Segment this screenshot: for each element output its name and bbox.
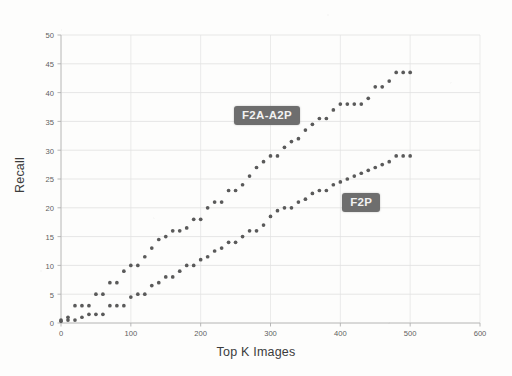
x-tick-label: 0 (59, 329, 63, 338)
x-tick-label: 200 (194, 329, 207, 338)
data-point (387, 160, 391, 164)
data-point (276, 154, 280, 158)
y-tick-label: 30 (46, 147, 54, 156)
data-point (136, 264, 140, 268)
data-point (59, 319, 63, 323)
data-point (297, 200, 301, 204)
data-point (136, 292, 140, 296)
data-point (199, 217, 203, 221)
data-point (108, 281, 112, 285)
data-point (304, 128, 308, 132)
data-point (122, 304, 126, 308)
data-point (234, 241, 238, 245)
data-point (80, 304, 84, 308)
data-point (304, 197, 308, 201)
data-point (311, 192, 315, 196)
data-point (164, 235, 168, 239)
series-points-f2p (59, 154, 412, 323)
data-point (297, 137, 301, 141)
data-point (129, 264, 133, 268)
data-point (394, 154, 398, 158)
data-point (352, 174, 356, 178)
data-point (290, 140, 294, 144)
data-point (164, 275, 168, 279)
data-point (276, 209, 280, 213)
data-point (122, 269, 126, 273)
x-tick-label: 400 (334, 329, 347, 338)
data-point (115, 304, 119, 308)
tick-labels: 051015202530354045500100200300400500600 (46, 31, 487, 338)
data-point (143, 292, 147, 296)
data-point (290, 206, 294, 210)
data-point (241, 235, 245, 239)
data-point (73, 318, 77, 322)
y-tick-label: 5 (50, 291, 54, 300)
data-point (206, 206, 210, 210)
series-label-f2p: F2P (342, 193, 380, 212)
gridlines (61, 35, 480, 323)
data-point (318, 189, 322, 193)
data-point (227, 241, 231, 245)
data-point (248, 229, 252, 233)
data-point (157, 238, 161, 242)
data-point (227, 189, 231, 193)
plot-canvas: 051015202530354045500100200300400500600 (0, 0, 512, 376)
data-point (269, 154, 273, 158)
x-tick-label: 600 (474, 329, 487, 338)
data-point (325, 117, 329, 121)
data-point (199, 258, 203, 262)
data-point (332, 183, 336, 187)
x-tick-label: 300 (264, 329, 277, 338)
y-tick-label: 25 (46, 175, 54, 184)
data-point (269, 215, 273, 219)
data-point (408, 154, 412, 158)
data-point (87, 304, 91, 308)
data-point (192, 264, 196, 268)
x-tick-label: 100 (124, 329, 137, 338)
data-point (213, 200, 217, 204)
data-point (352, 102, 356, 106)
y-tick-label: 20 (46, 204, 54, 213)
data-point (178, 229, 182, 233)
data-point (262, 160, 266, 164)
data-point (262, 223, 266, 227)
data-point (338, 180, 342, 184)
data-point (255, 166, 259, 170)
data-point (401, 154, 405, 158)
y-tick-label: 10 (46, 262, 54, 271)
y-axis-title: Recall (13, 135, 27, 215)
y-tick-label: 0 (50, 319, 54, 328)
series-label-f2a-a2p: F2A-A2P (234, 106, 300, 125)
data-point (373, 166, 377, 170)
data-point (94, 292, 98, 296)
data-point (338, 102, 342, 106)
data-point (387, 79, 391, 83)
y-tick-label: 50 (46, 31, 54, 40)
data-point (157, 281, 161, 285)
data-point (359, 171, 363, 175)
data-point (115, 281, 119, 285)
data-point (332, 108, 336, 112)
data-point (108, 304, 112, 308)
data-point (255, 229, 259, 233)
data-point (87, 313, 91, 317)
data-point (129, 295, 133, 299)
data-point (345, 177, 349, 181)
data-point (206, 255, 210, 259)
data-point (318, 117, 322, 121)
data-point (283, 145, 287, 149)
data-point (171, 229, 175, 233)
data-point (143, 255, 147, 259)
scatter-chart-figure: 051015202530354045500100200300400500600 … (0, 0, 512, 376)
data-point (101, 313, 105, 317)
data-point (178, 269, 182, 273)
data-point (373, 85, 377, 89)
data-point (366, 169, 370, 173)
data-point (394, 71, 398, 75)
data-point (80, 315, 84, 319)
data-point (380, 85, 384, 89)
data-point (234, 189, 238, 193)
data-point (325, 189, 329, 193)
data-point (73, 304, 77, 308)
data-point (248, 174, 252, 178)
